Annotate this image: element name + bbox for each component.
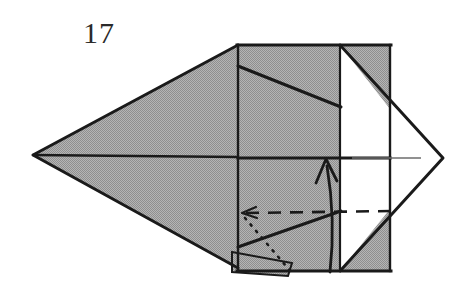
origami-diagram-figure: 17 [0, 0, 475, 283]
origami-diagram-svg [0, 0, 475, 283]
